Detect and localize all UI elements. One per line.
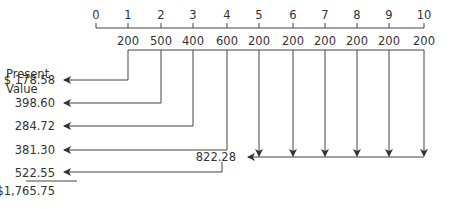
pv-label-5: 522.55 [15,166,55,180]
cash-flow-year-2: 500 [150,34,172,48]
cash-flow-year-7: 200 [314,34,336,48]
tick-label-3: 3 [189,8,196,22]
tick-label-2: 2 [157,8,164,22]
tick-label-6: 6 [289,8,296,22]
pv-label-4: 381.30 [15,143,55,157]
tick-label-8: 8 [353,8,360,22]
cash-flow-year-3: 400 [182,34,204,48]
pv-label-3: 284.72 [15,119,55,133]
cash-flow-year-8: 200 [346,34,368,48]
tick-label-0: 0 [92,8,99,22]
cash-flow-year-9: 200 [378,34,400,48]
cash-flow-year-10: 200 [413,34,435,48]
cash-flow-year-5: 200 [248,34,270,48]
tick-label-10: 10 [417,8,432,22]
cash-flow-diagram: 012345678910 200500400600200200200200200… [0,0,454,209]
tick-label-5: 5 [255,8,262,22]
pv-label-2: 398.60 [15,96,55,110]
cash-flow-year-4: 600 [216,34,238,48]
tick-label-9: 9 [385,8,392,22]
pv-label-1: $ 178.58 [4,73,55,87]
pv-total: $1,765.75 [0,184,55,198]
pv-arrow-year-4 [64,50,227,150]
tick-label-1: 1 [124,8,131,22]
cash-flow-year-6: 200 [282,34,304,48]
pv-arrow-year-1 [64,50,128,80]
tick-label-7: 7 [321,8,328,22]
tick-label-4: 4 [223,8,230,22]
cash-flow-year-1: 200 [117,34,139,48]
pv-arrow-year-2 [64,50,161,103]
annuity-value-label: 822.28 [196,150,236,164]
